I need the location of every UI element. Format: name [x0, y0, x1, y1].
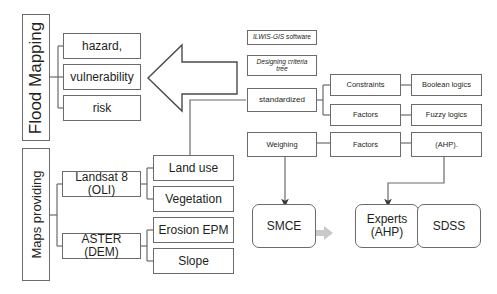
node-land-use-label: Land use [169, 162, 218, 175]
node-boolean-logics-label: Boolean logics [422, 81, 471, 89]
node-risk-label: risk [93, 102, 112, 115]
node-erosion-epm: Erosion EPM [153, 217, 234, 243]
node-sdss: SDSS [417, 204, 481, 248]
flowchart-canvas: Flood Mapping Maps providing hazard, vul… [0, 0, 497, 294]
node-factors-weighting: Factors [330, 132, 401, 157]
node-aster-dem: ASTER (DEM) [62, 233, 141, 259]
node-sdss-label: SDSS [433, 220, 466, 233]
node-designing-criteria-tree-label: Designing criteria tree [250, 59, 314, 73]
node-experts-ahp-label-line2: (AHP) [371, 226, 404, 239]
node-vulnerability: vulnerability [63, 64, 141, 90]
node-erosion-epm-label: Erosion EPM [158, 224, 228, 237]
node-factors-top-label: Factors [353, 111, 378, 119]
node-landsat-8-oli: Landsat 8 (OLI) [62, 171, 141, 197]
wire-landuse-to-standardized [190, 100, 246, 156]
group-label-maps-providing: Maps providing [22, 148, 50, 281]
node-vegetation-label: Vegetation [165, 193, 222, 206]
node-slope-label: Slope [178, 255, 209, 268]
node-hazard-label: hazard, [82, 40, 122, 53]
node-ahp: (AHP). [411, 132, 482, 157]
node-vulnerability-label: vulnerability [70, 71, 133, 84]
node-ilwis-gis-software: ILWIS-GIS software [247, 30, 317, 45]
node-constraints: Constraints [330, 74, 401, 96]
node-factors-top: Factors [330, 104, 401, 126]
node-aster-dem-label: ASTER (DEM) [65, 233, 138, 258]
group-label-flood-mapping-text: Flood Mapping [26, 21, 46, 133]
group-label-flood-mapping: Flood Mapping [22, 14, 50, 141]
node-designing-criteria-tree: Designing criteria tree [247, 55, 317, 76]
node-weighing-label: Weighing [266, 141, 297, 149]
node-smce: SMCE [252, 204, 316, 248]
big-left-arrow-icon [148, 45, 237, 111]
node-smce-label: SMCE [267, 220, 302, 233]
node-standardized: standardized [247, 88, 317, 112]
node-boolean-logics: Boolean logics [411, 74, 482, 96]
node-hazard: hazard, [63, 33, 141, 59]
node-standardized-label: standardized [259, 96, 305, 104]
node-weighing: Weighing [247, 132, 317, 157]
node-risk: risk [63, 95, 141, 121]
node-landsat-8-oli-label: Landsat 8 (OLI) [65, 171, 138, 196]
node-fuzzy-logics: Fuzzy logics [411, 104, 482, 126]
node-ilwis-gis-software-suffix: software [284, 33, 311, 40]
group-label-maps-providing-text: Maps providing [29, 170, 44, 258]
node-constraints-label: Constraints [347, 81, 385, 89]
node-land-use: Land use [153, 155, 234, 181]
node-vegetation: Vegetation [153, 186, 234, 212]
node-ahp-label: (AHP). [435, 141, 458, 149]
node-experts-ahp: Experts (AHP) [355, 204, 419, 248]
wire-ahp-experts [388, 157, 444, 203]
node-slope: Slope [153, 248, 234, 274]
node-fuzzy-logics-label: Fuzzy logics [426, 111, 467, 119]
node-factors-weighting-label: Factors [353, 141, 378, 149]
node-ilwis-gis-software-prefix: ILWIS-GIS [253, 33, 284, 40]
